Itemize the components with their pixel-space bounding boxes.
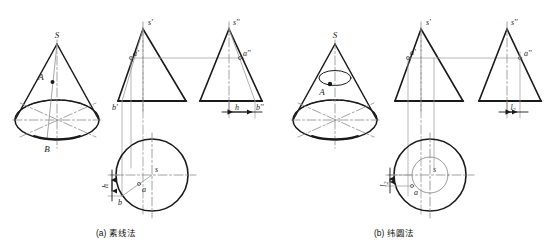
panel-b-pictorial <box>291 40 379 148</box>
label-b-top-a: a <box>414 188 418 197</box>
label-a-pictorial-S: S <box>55 30 60 40</box>
caption-panel-b: (b) 纬圆法 <box>374 226 414 238</box>
dimension-b-top-l2: l2 <box>379 181 389 186</box>
label-a-front-a-prime: a' <box>133 49 139 58</box>
label-a-pictorial-A: A <box>37 72 44 82</box>
label-b-side-a-double-prime: a'' <box>524 49 532 58</box>
label-a-top-b: b <box>118 198 122 207</box>
label-b-front-a-prime: a' <box>410 48 416 57</box>
panel-a-pictorial <box>13 40 101 148</box>
label-a-side-a-double-prime: a'' <box>243 49 251 58</box>
drawing-canvas: S A B s' a' b' s'' a'' b'' h s a b h S A… <box>0 0 557 248</box>
dimension-b-side-l2: l2 <box>510 103 515 113</box>
label-b-side-s-double-prime: s'' <box>511 18 518 27</box>
label-a-top-a: a <box>142 185 146 194</box>
label-b-top-s: s <box>433 165 436 174</box>
label-a-top-s: s <box>155 165 158 174</box>
label-a-front-b-prime: b' <box>112 103 118 112</box>
label-b-pictorial-S: S <box>333 30 338 40</box>
dimension-a-top-h: h <box>101 184 110 188</box>
caption-panel-a: (a) 素线法 <box>96 226 136 238</box>
label-a-front-s-prime: s' <box>148 18 153 27</box>
label-a-pictorial-B: B <box>44 144 50 154</box>
panel-b-top-view <box>386 133 474 218</box>
label-b-pictorial-A: A <box>318 87 325 97</box>
label-a-side-s-double-prime: s'' <box>233 18 240 27</box>
label-b-front-s-prime: s' <box>426 18 431 27</box>
panel-a-side-view <box>200 22 262 118</box>
dimension-a-side-h: h <box>235 103 239 112</box>
label-a-side-b-double-prime: b'' <box>256 103 264 112</box>
technical-drawing-figure: S A B s' a' b' s'' a'' b'' h s a b h S A… <box>0 0 557 248</box>
